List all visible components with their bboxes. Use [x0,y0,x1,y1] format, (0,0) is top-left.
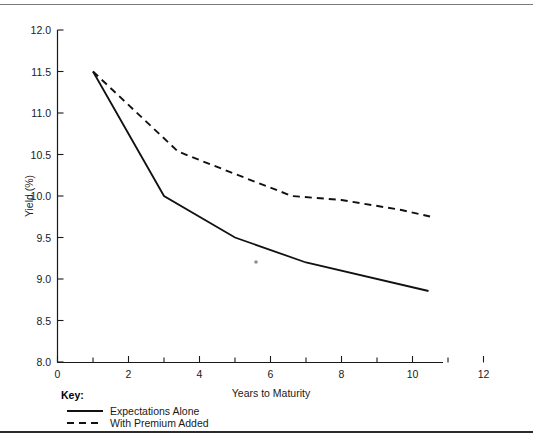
y-tick-label-9-5: 9.5 [36,232,51,244]
x-tick-label-8: 8 [339,368,345,380]
series-expectations-alone [93,72,429,292]
print-speck [254,260,258,264]
y-tick-label-8-0: 8.0 [36,356,51,368]
x-tick-label-4: 4 [197,368,203,380]
figure-container: 12.0 11.5 11.0 10.5 10.0 9.5 9.0 8.5 8.0… [0,0,533,444]
legend-label-expectations-alone: Expectations Alone [110,405,199,417]
legend-label-with-premium-added: With Premium Added [110,417,209,429]
x-tick-label-2: 2 [126,368,132,380]
x-tick-label-10: 10 [407,368,419,380]
y-tick-label-11-5: 11.5 [31,66,51,78]
yield-curve-chart: 12.0 11.5 11.0 10.5 10.0 9.5 9.0 8.5 8.0… [0,0,533,444]
series-with-premium-added [93,72,430,217]
legend: Key: Expectations Alone With Premium Add… [61,389,209,429]
y-tick-label-8-5: 8.5 [36,315,51,327]
y-axis-title: Yield (%) [23,175,35,217]
x-axis-title: Years to Maturity [232,387,311,399]
y-tick-label-9-0: 9.0 [36,273,51,285]
y-axis-ticks [58,30,64,362]
x-tick-label-0: 0 [55,368,61,380]
x-axis-ticks [58,356,484,363]
x-tick-label-6: 6 [268,368,274,380]
y-tick-label-10-5: 10.5 [31,149,52,161]
y-tick-label-11-0: 11.0 [31,107,51,119]
x-tick-label-12: 12 [478,368,490,380]
legend-title: Key: [61,389,84,401]
y-tick-label-12-0: 12.0 [31,24,52,36]
